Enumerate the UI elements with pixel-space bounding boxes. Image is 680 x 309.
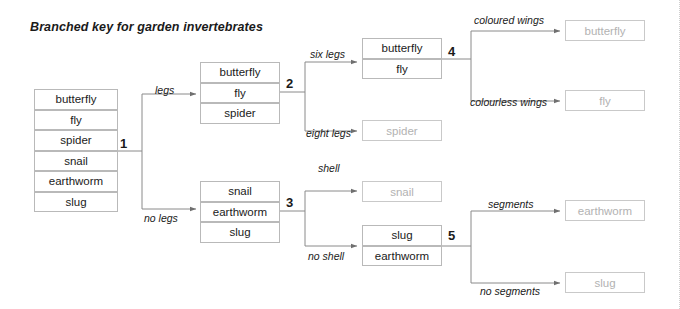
legs-group: butterflyflyspider: [200, 62, 280, 124]
taxon-box[interactable]: earthworm: [565, 200, 645, 221]
start-group: butterflyflyspidersnailearthwormslug: [34, 89, 118, 212]
node-2: 2: [286, 76, 293, 91]
taxon-box[interactable]: spider: [34, 130, 118, 151]
edge-label-no-shell: no shell: [308, 250, 344, 262]
taxon-box[interactable]: earthworm: [362, 246, 442, 267]
taxon-box[interactable]: butterfly: [34, 89, 118, 110]
page-title: Branched key for garden invertebrates: [30, 20, 263, 34]
edge-label-legs: legs: [155, 84, 174, 96]
taxon-box[interactable]: slug: [362, 225, 442, 246]
colourless-wings-group: fly: [565, 90, 645, 111]
taxon-box[interactable]: butterfly: [362, 38, 442, 59]
no-shell-group: slugearthworm: [362, 225, 442, 266]
taxon-box[interactable]: slug: [34, 192, 118, 213]
edge-label-six-legs: six legs: [310, 48, 345, 60]
taxon-box[interactable]: snail: [362, 181, 442, 202]
coloured-wings-group: butterfly: [565, 20, 645, 41]
taxon-box[interactable]: spider: [200, 103, 280, 124]
edge-label-no-legs: no legs: [144, 212, 178, 224]
segments-group: earthworm: [565, 200, 645, 221]
node-4: 4: [448, 44, 455, 59]
taxon-box[interactable]: snail: [34, 151, 118, 172]
edge-label-colourless-wings: colourless wings: [470, 96, 547, 108]
node-5: 5: [448, 228, 455, 243]
taxon-box[interactable]: slug: [200, 222, 280, 243]
edge-label-no-segments: no segments: [480, 285, 540, 297]
taxon-box[interactable]: fly: [34, 110, 118, 131]
taxon-box[interactable]: fly: [362, 59, 442, 80]
taxon-box[interactable]: earthworm: [34, 171, 118, 192]
taxon-box[interactable]: snail: [200, 181, 280, 202]
node-1: 1: [120, 136, 127, 151]
eight-legs-group: spider: [362, 120, 442, 141]
node-3: 3: [286, 195, 293, 210]
taxon-box[interactable]: earthworm: [200, 202, 280, 223]
edge-label-coloured-wings: coloured wings: [474, 14, 544, 26]
six-legs-group: butterflyfly: [362, 38, 442, 79]
taxon-box[interactable]: slug: [565, 272, 645, 293]
edge-label-segments: segments: [488, 198, 534, 210]
taxon-box[interactable]: fly: [565, 90, 645, 111]
no-legs-group: snailearthwormslug: [200, 181, 280, 243]
edge-label-eight-legs: eight legs: [306, 127, 351, 139]
taxon-box[interactable]: fly: [200, 83, 280, 104]
taxon-box[interactable]: butterfly: [200, 62, 280, 83]
edge-label-shell: shell: [318, 162, 340, 174]
no-segments-group: slug: [565, 272, 645, 293]
taxon-box[interactable]: spider: [362, 120, 442, 141]
shell-group: snail: [362, 181, 442, 202]
taxon-box[interactable]: butterfly: [565, 20, 645, 41]
diagram-canvas: Branched key for garden invertebrates: [0, 0, 680, 309]
